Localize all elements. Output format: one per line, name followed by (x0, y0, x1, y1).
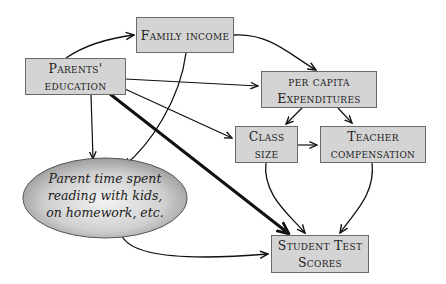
edge-teacher-to-test-scores (340, 162, 372, 233)
node-label-line: Class (249, 128, 285, 145)
edge-expenditures-to-teacher (338, 108, 352, 123)
node-label-line: per capita (288, 73, 349, 90)
node-parent-time: Parent time spent reading with kids, on … (30, 170, 180, 221)
node-label-line: Teacher (347, 128, 399, 145)
node-label-line: Family income (141, 27, 230, 44)
edge-parents-to-expenditures (125, 79, 258, 86)
edge-parents-to-income (66, 35, 134, 58)
node-label-line: Parents' (48, 60, 102, 77)
node-label-line: Student Test (278, 237, 362, 254)
edge-income-to-parent-time (124, 53, 186, 166)
edge-expenditures-to-class-size (286, 108, 302, 124)
node-label-line: education (45, 77, 107, 94)
edge-parent-time-to-test-scores (122, 236, 268, 257)
node-class-size: Class size (235, 126, 298, 163)
edge-income-to-expenditures (234, 35, 316, 70)
node-label-line: Parent time spent (30, 170, 180, 187)
node-label-line: reading with kids, (30, 187, 180, 204)
node-label-line: size (255, 145, 279, 162)
node-parents-education: Parents' education (25, 58, 126, 95)
node-student-test-scores: Student Test Scores (271, 235, 369, 273)
edge-parents-to-class-size (125, 89, 232, 138)
node-label-line: Scores (298, 254, 342, 271)
node-teacher-compensation: Teacher compensation (320, 126, 426, 163)
edge-parents-to-parent-time (91, 94, 93, 159)
node-expenditures: per capita Expenditures (261, 71, 377, 108)
node-label-line: on homework, etc. (30, 204, 180, 221)
node-family-income: Family income (136, 17, 234, 53)
node-label-line: Expenditures (277, 90, 361, 107)
edge-class-to-test-scores (266, 162, 305, 233)
node-label-line: compensation (331, 145, 416, 162)
